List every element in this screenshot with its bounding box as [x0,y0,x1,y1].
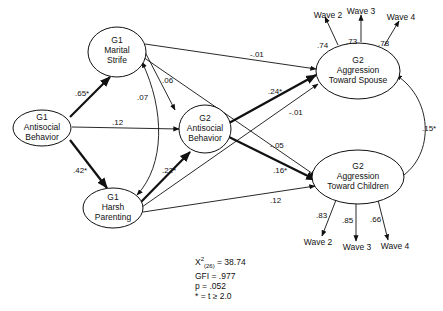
coef-g2antisocial-children: .16* [273,166,287,175]
indicator-spouse-wave2: Wave 2 [314,10,343,20]
node-label: G1 [107,192,119,202]
significance-note: * = t ≥ 2.0 [195,291,246,301]
indicator-spouse-wave3: Wave 3 [347,6,376,16]
coef-g2antisocial-spouse: .24* [268,87,282,96]
indicator-children-wave2: Wave 2 [304,237,333,247]
indicator-children-wave3: Wave 3 [343,242,372,252]
node-label: Marital [104,45,130,55]
coef-antisocial-harsh: .42* [73,166,87,175]
node-label: G1 [36,112,48,122]
coef-harsh-spouse: -.01 [289,108,303,117]
node-label: Harsh [102,202,125,212]
path-harsh-spouse [142,84,318,207]
path-antisocial-g2antisocial [72,127,179,129]
coef-marital-children: -.05 [270,141,284,150]
node-label: Behavior [188,133,222,143]
path-marital-spouse [145,44,316,69]
path-harsh-g2antisocial [141,152,190,202]
coef-antisocial-g2antisocial: .12 [112,118,124,127]
path-antisocial-harsh [70,140,107,188]
coef-marital-g2antisocial: .06 [162,76,174,85]
coef-spouse-children-cov: .15* [422,124,436,133]
cov-spouse-children [396,75,425,180]
node-label: G2 [199,113,211,123]
node-label: G2 [352,55,364,65]
node-label: Parenting [95,212,132,222]
loading-spouse-wave4: .78 [378,39,390,48]
node-label: G1 [111,35,123,45]
node-label: Aggression [337,171,380,181]
loading-spouse-wave3: .73 [346,37,358,46]
p-value: p = .052 [195,281,246,291]
path-harsh-children [143,186,315,212]
coef-harsh-g2antisocial: .22* [162,166,176,175]
coef-harsh-children: .12 [270,196,282,205]
node-label: Toward Spouse [329,75,388,85]
indicator-spouse-wave4: Wave 4 [387,12,416,22]
gfi: GFI = .977 [195,271,246,281]
node-label: G2 [352,161,364,171]
coef-marital-spouse: -.01 [250,50,264,59]
node-label: Behavior [25,132,59,142]
loading-spouse-wave2: .74 [317,41,329,50]
node-label: Aggression [337,65,380,75]
node-label: Toward Children [327,181,389,191]
node-label: Antisocial [24,122,60,132]
loading-children-wave2: .83 [316,211,328,220]
loading-children-wave3: .85 [342,216,354,225]
indicator-children-wave4: Wave 4 [381,241,410,251]
node-label: Strife [107,55,127,65]
node-label: Antisocial [187,123,223,133]
fit-statistics: X2(26) = 38.74 GFI = .977 p = .052 * = t… [195,254,246,301]
coef-marital-harsh-cov: .07 [137,93,149,102]
coef-antisocial-marital: .65* [75,89,89,98]
loading-children-wave4: .66 [370,215,382,224]
chi-square: X2(26) = 38.74 [195,254,246,271]
